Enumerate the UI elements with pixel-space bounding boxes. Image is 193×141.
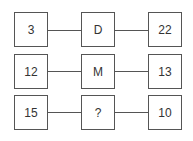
row3-middle-box: ? (81, 95, 115, 130)
connector-line (48, 71, 82, 72)
row1-right-box: 22 (148, 12, 182, 47)
row1-left-box: 3 (14, 12, 48, 47)
connector-line (48, 112, 82, 113)
connector-line (48, 30, 82, 31)
row1-middle-box: D (81, 12, 115, 47)
row2-middle-box: M (81, 54, 115, 89)
row3-right-box: 10 (148, 95, 182, 130)
connector-line (115, 71, 149, 72)
row2-left-box: 12 (14, 54, 48, 89)
connector-line (115, 30, 149, 31)
connector-line (115, 112, 149, 113)
row3-left-box: 15 (14, 95, 48, 130)
row2-right-box: 13 (148, 54, 182, 89)
